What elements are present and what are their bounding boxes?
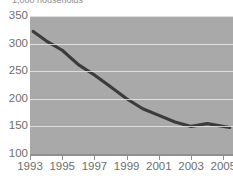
- x-tick-label-1995: 1995: [49, 161, 75, 173]
- gridline-300: [30, 44, 233, 45]
- gridline-200: [30, 99, 233, 100]
- gridline-250: [30, 71, 233, 72]
- gridline-150: [30, 126, 233, 127]
- y-tick-label-150: 150: [0, 120, 28, 132]
- x-tick-label-2005: 2005: [211, 161, 233, 173]
- x-tick-label-2001: 2001: [146, 161, 172, 173]
- x-tick-label-2003: 2003: [178, 161, 204, 173]
- y-axis-tick-labels: 350300250200150100: [0, 0, 28, 176]
- y-tick-label-300: 300: [0, 38, 28, 50]
- x-tick-label-1993: 1993: [17, 161, 43, 173]
- y-tick-label-250: 250: [0, 65, 28, 77]
- plot-area: [30, 16, 233, 154]
- gridline-350: [30, 16, 233, 17]
- x-tick-label-1997: 1997: [82, 161, 108, 173]
- y-tick-label-350: 350: [0, 10, 28, 22]
- chart-figure: 1,000 households 350300250200150100 1993…: [0, 0, 233, 176]
- series-line-households: [30, 16, 233, 154]
- x-axis-line: [30, 154, 233, 156]
- y-tick-label-100: 100: [0, 148, 28, 160]
- x-tick-label-1999: 1999: [114, 161, 140, 173]
- y-tick-label-200: 200: [0, 93, 28, 105]
